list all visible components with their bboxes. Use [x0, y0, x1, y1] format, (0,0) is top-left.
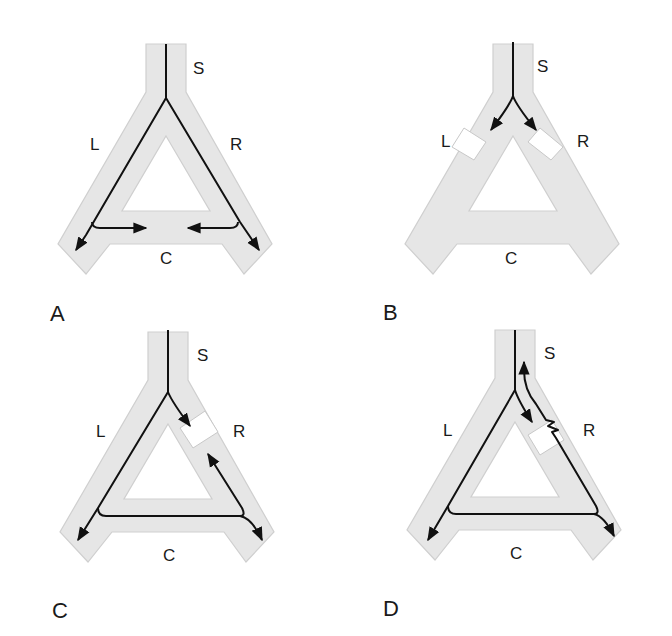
- label-right: R: [583, 422, 595, 439]
- label-left: L: [443, 422, 452, 439]
- label-stem: S: [193, 60, 204, 77]
- label-left: L: [90, 136, 99, 153]
- panel-a: S L R C A: [0, 0, 336, 318]
- panel-c: S L R C C: [0, 318, 336, 636]
- label-right: R: [233, 423, 245, 440]
- panel-b: S L R C B: [336, 0, 672, 318]
- label-cross: C: [505, 250, 517, 267]
- label-stem: S: [537, 58, 548, 75]
- tube-network-c: [0, 318, 336, 636]
- panel-letter: D: [383, 598, 399, 620]
- tube-network-b: [336, 0, 672, 318]
- label-right: R: [230, 136, 242, 153]
- label-cross: C: [160, 250, 172, 267]
- label-left: L: [441, 133, 450, 150]
- label-cross: C: [510, 545, 522, 562]
- panel-d: S L R C D: [336, 318, 672, 636]
- label-stem: S: [544, 345, 555, 362]
- label-stem: S: [197, 347, 208, 364]
- label-right: R: [577, 133, 589, 150]
- label-cross: C: [163, 547, 175, 564]
- tube-network-d: [336, 318, 672, 636]
- tube-network-a: [0, 0, 336, 318]
- label-left: L: [96, 423, 105, 440]
- panel-letter: C: [52, 600, 68, 622]
